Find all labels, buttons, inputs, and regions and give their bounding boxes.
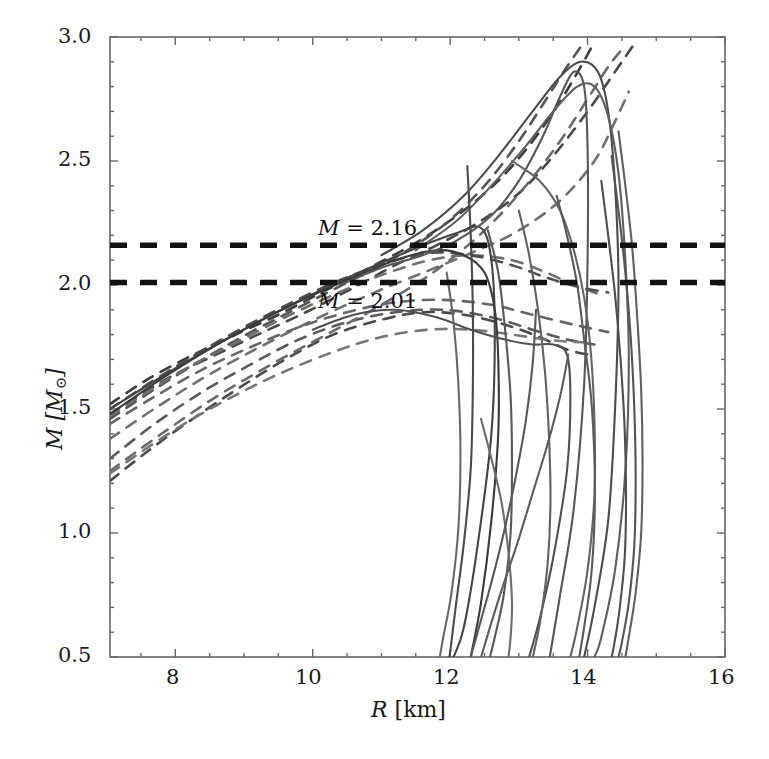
y-axis-title-unit-close: ] bbox=[42, 368, 67, 377]
annotation-mass-201: M = 2.01 bbox=[318, 289, 417, 313]
annotation-216-symbol: M bbox=[318, 216, 340, 240]
curve-hybrid-solid-1 bbox=[110, 226, 495, 657]
y-axis-title-unit-open: [M bbox=[42, 389, 67, 427]
curve-hybrid-solid-8 bbox=[557, 196, 595, 657]
x-tick-label-16: 16 bbox=[708, 665, 735, 689]
y-axis-title-symbol: M bbox=[42, 427, 67, 450]
y-axis-title-wrap: M [M⊙] bbox=[8, 300, 48, 460]
y-tick-label-2: 2.0 bbox=[58, 271, 91, 295]
x-axis-title: R [km] bbox=[371, 697, 446, 722]
curve-hadronic-8 bbox=[110, 329, 594, 474]
curve-hybrid-solid-6 bbox=[416, 83, 629, 657]
y-tick-label-1: 1.0 bbox=[58, 519, 91, 543]
curve-hadronic-7 bbox=[110, 92, 629, 439]
annotation-216-value: = 2.16 bbox=[340, 216, 418, 240]
x-tick-label-14: 14 bbox=[570, 665, 597, 689]
y-tick-label-3: 3.0 bbox=[58, 24, 91, 48]
y-tick-label-05: 0.5 bbox=[58, 643, 91, 667]
plot-canvas bbox=[0, 0, 769, 759]
sun-symbol-icon: ⊙ bbox=[52, 377, 70, 390]
annotation-mass-216: M = 2.16 bbox=[318, 216, 417, 240]
x-axis-title-unit: [km] bbox=[388, 697, 446, 722]
curve-hadronic-5 bbox=[110, 49, 622, 471]
curve-hybrid-solid-5 bbox=[381, 62, 618, 657]
annotation-201-symbol: M bbox=[318, 289, 340, 313]
mass-radius-figure: 3.0 2.5 2.0 1.5 1.0 0.5 8 10 12 14 16 R … bbox=[0, 0, 769, 759]
data-curves bbox=[110, 42, 643, 657]
curve-hybrid-solid-3 bbox=[313, 310, 571, 657]
x-tick-label-8: 8 bbox=[166, 665, 179, 689]
curve-hybrid-solid-2 bbox=[110, 250, 499, 657]
x-tick-label-12: 12 bbox=[433, 665, 460, 689]
x-axis-title-symbol: R bbox=[371, 697, 388, 722]
x-tick-label-10: 10 bbox=[295, 665, 322, 689]
annotation-201-value: = 2.01 bbox=[340, 289, 418, 313]
y-tick-label-25: 2.5 bbox=[58, 147, 91, 171]
y-axis-title: M [M⊙] bbox=[42, 368, 70, 450]
curve-hadronic-1 bbox=[110, 312, 588, 481]
curve-hadronic-2 bbox=[110, 310, 594, 459]
